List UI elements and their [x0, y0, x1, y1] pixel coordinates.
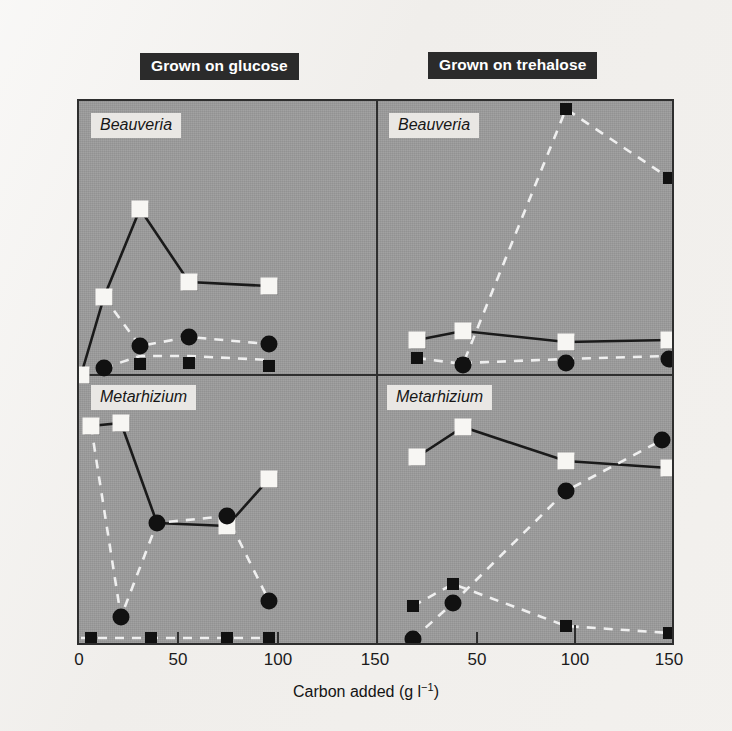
data-point-open-square — [261, 471, 278, 488]
data-point-filled-circle — [661, 351, 675, 368]
column-header-glucose: Grown on glucose — [140, 53, 299, 80]
data-point-filled-circle — [558, 355, 575, 372]
data-point-filled-square — [560, 103, 572, 115]
data-point-open-square — [455, 323, 472, 340]
y-axis-title: Relative solute content of conidia — [10, 645, 40, 731]
data-point-filled-circle — [654, 432, 671, 449]
tick-label-right-150: 150 — [655, 650, 683, 670]
column-header-trehalose: Grown on trehalose — [428, 52, 597, 79]
data-point-filled-square — [407, 600, 419, 612]
data-point-filled-square — [411, 352, 423, 364]
data-point-filled-circle — [132, 338, 149, 355]
data-point-filled-square — [263, 360, 275, 372]
bl-filled-circle-line — [91, 426, 269, 617]
panel-label-bottom-left: Metarhizium — [91, 385, 196, 410]
tick-mark-right-100 — [574, 625, 576, 645]
data-point-open-square — [77, 367, 90, 384]
data-point-open-square — [455, 419, 472, 436]
data-point-filled-square — [263, 632, 275, 644]
data-point-open-square — [558, 334, 575, 351]
data-point-open-square — [96, 289, 113, 306]
tick-mark-left-50 — [177, 632, 179, 645]
data-point-filled-square — [457, 358, 469, 370]
data-point-filled-circle — [405, 631, 422, 646]
data-point-filled-square — [663, 172, 674, 184]
data-point-open-square — [661, 460, 675, 477]
data-point-open-square — [261, 278, 278, 295]
panel-label-bottom-right: Metarhizium — [387, 385, 492, 410]
x-axis-title-tail: ) — [434, 683, 439, 700]
x-axis-title: Carbon added (g l−1) — [0, 681, 732, 701]
data-point-open-square — [132, 201, 149, 218]
data-point-open-square — [83, 418, 100, 435]
data-point-filled-square — [221, 632, 233, 644]
data-point-filled-square — [560, 620, 572, 632]
data-point-filled-circle — [113, 609, 130, 626]
data-point-filled-circle — [181, 329, 198, 346]
data-point-filled-circle — [149, 515, 166, 532]
tick-label-right-50: 50 — [468, 650, 487, 670]
panel-divider-vertical — [376, 101, 378, 643]
data-point-filled-square — [134, 358, 146, 370]
data-point-open-square — [558, 453, 575, 470]
data-point-filled-circle — [96, 360, 113, 377]
panel-label-top-left: Beauveria — [91, 113, 181, 138]
data-point-filled-square — [145, 632, 157, 644]
panel-label-top-right: Beauveria — [389, 113, 479, 138]
figure-root: Grown on glucose Grown on trehalose — [0, 0, 732, 731]
data-point-open-square — [409, 332, 426, 349]
data-point-open-square — [113, 415, 130, 432]
plot-frame: Beauveria Beauveria Metarhizium Metarhiz… — [77, 99, 674, 645]
data-point-filled-circle — [261, 593, 278, 610]
tick-mark-left-100 — [277, 632, 279, 645]
data-point-filled-circle — [558, 483, 575, 500]
data-point-filled-square — [447, 578, 459, 590]
x-axis-title-exponent: −1 — [421, 681, 434, 693]
data-point-open-square — [181, 274, 198, 291]
data-point-open-square — [409, 449, 426, 466]
data-point-filled-circle — [219, 508, 236, 525]
data-point-filled-circle — [261, 336, 278, 353]
tick-label-left-0: 0 — [74, 650, 83, 670]
tick-label-left-50: 50 — [169, 650, 188, 670]
tick-label-left-150: 150 — [361, 650, 389, 670]
tick-label-left-100: 100 — [264, 650, 292, 670]
data-point-filled-square — [85, 632, 97, 644]
data-point-filled-square — [663, 627, 674, 639]
x-axis-title-main: Carbon added (g l — [293, 683, 421, 700]
data-point-filled-circle — [445, 595, 462, 612]
tick-mark-right-50 — [476, 632, 478, 645]
data-point-filled-square — [183, 357, 195, 369]
panel-divider-horizontal — [79, 374, 672, 376]
bl-open-square-line — [91, 423, 269, 526]
tick-label-right-100: 100 — [561, 650, 589, 670]
data-point-open-square — [661, 332, 675, 349]
